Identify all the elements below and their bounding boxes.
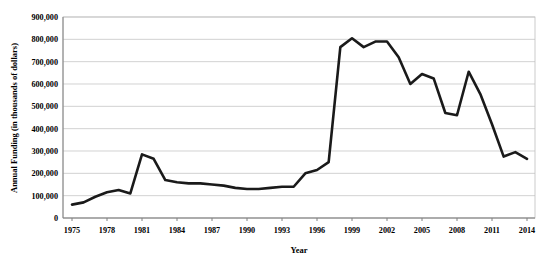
chart-figure: 900,000800,000700,000600,000500,000400,0… (0, 0, 541, 265)
x-axis-tick-label: 2002 (379, 226, 395, 235)
y-axis-tick-label: 700,000 (31, 58, 58, 67)
y-axis-tick-label: 100,000 (31, 192, 58, 201)
y-axis-tick-label: 900,000 (31, 13, 58, 22)
x-axis-title: Year (291, 245, 308, 255)
x-axis-tick-label: 2008 (449, 226, 465, 235)
x-axis-tick-label: 1996 (309, 226, 325, 235)
x-axis-tick-label: 2014 (519, 226, 535, 235)
x-axis-tick-labels: 1975197819811984198719901993199619992002… (64, 226, 535, 235)
x-axis-tick-label: 1999 (344, 226, 360, 235)
y-axis-title: Annual Funding (in thousands of dollars) (9, 43, 19, 193)
plot-area-border (63, 17, 535, 218)
x-axis-tick-label: 1975 (64, 226, 80, 235)
y-axis-tick-label: 300,000 (31, 147, 58, 156)
x-axis-tick-label: 1990 (239, 226, 255, 235)
gridlines (63, 17, 535, 218)
x-axis-tick-label: 2005 (414, 226, 430, 235)
y-axis-tick-label: 400,000 (31, 125, 58, 134)
x-axis-tick-label: 1993 (274, 226, 290, 235)
data-series-group (72, 38, 527, 204)
x-axis-tick-label: 1981 (134, 226, 150, 235)
y-axis-tick-label: 500,000 (31, 102, 58, 111)
x-axis-tick-label: 1987 (204, 226, 220, 235)
y-axis-tick-label: 600,000 (31, 80, 58, 89)
y-axis-tick-label: 800,000 (31, 35, 58, 44)
data-line-annual-funding (72, 38, 527, 204)
x-axis-tick-label: 1978 (99, 226, 115, 235)
y-axis-tick-label: 200,000 (31, 169, 58, 178)
y-axis-tick-labels: 900,000800,000700,000600,000500,000400,0… (31, 13, 58, 223)
line-chart: 900,000800,000700,000600,000500,000400,0… (0, 0, 541, 265)
x-axis-tick-label: 2011 (484, 226, 500, 235)
x-axis-tick-label: 1984 (169, 226, 185, 235)
y-axis-tick-label: 0 (54, 214, 58, 223)
